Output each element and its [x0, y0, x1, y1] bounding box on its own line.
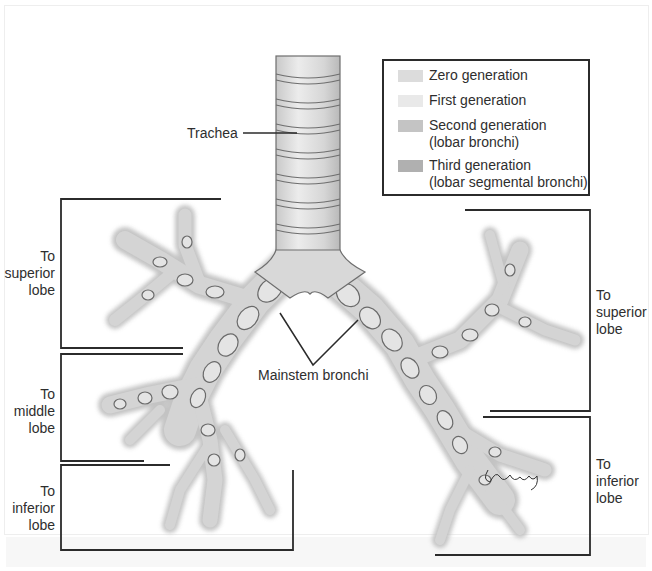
right-superior-lobe-label: To superior lobe	[596, 287, 647, 338]
trachea-drawing	[255, 56, 365, 298]
legend-swatch	[398, 95, 423, 107]
left-superior-lobe-label: To superior lobe	[0, 248, 55, 299]
left-middle-lobe-label: To middle lobe	[0, 386, 55, 437]
legend-item-first-generation: First generation	[384, 92, 526, 109]
legend-swatch	[398, 160, 423, 172]
left-inferior-lobe-label: To inferior lobe	[0, 483, 55, 534]
legend-item-zero-generation: Zero generation	[384, 67, 528, 84]
legend-swatch	[398, 120, 423, 132]
mainstem-leader	[280, 313, 358, 365]
trachea-label: Trachea	[187, 125, 238, 142]
legend-item-third-generation: Third generation (lobar segmental bronch…	[384, 157, 588, 191]
mainstem-bronchi-label: Mainstem bronchi	[258, 367, 369, 384]
legend-item-second-generation: Second generation (lobar bronchi)	[384, 117, 547, 151]
right-inferior-lobe-label: To inferior lobe	[596, 456, 639, 507]
legend: Zero generation First generation Second …	[382, 59, 590, 196]
legend-swatch	[398, 70, 423, 82]
